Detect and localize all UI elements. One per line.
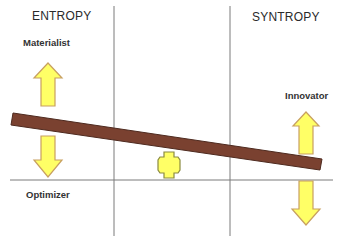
arrow-up-icon [293, 112, 319, 154]
materialist-label: Materialist [23, 37, 70, 48]
fulcrum-cross-icon [158, 152, 180, 178]
arrow-up-icon [34, 63, 62, 106]
entropy-heading: ENTROPY [32, 9, 91, 23]
seesaw-diagram: ENTROPY SYNTROPY Materialist Optimizer I… [0, 0, 339, 245]
syntropy-heading: SYNTROPY [252, 10, 320, 24]
arrow-down-icon [34, 136, 62, 177]
innovator-label: Innovator [285, 90, 328, 101]
arrow-down-icon [292, 181, 320, 225]
optimizer-label: Optimizer [26, 189, 70, 200]
